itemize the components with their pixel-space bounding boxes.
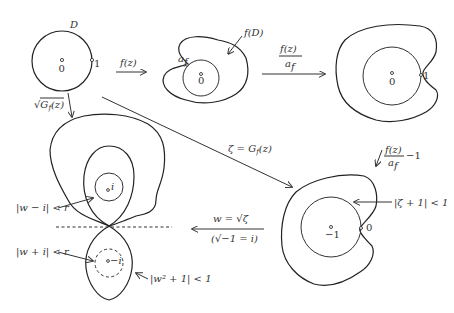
panel-w: i −i |w − i| < r |w + i| < r |w² + 1| < … (16, 114, 212, 300)
arrow-f-label: f(z) (119, 57, 137, 68)
boundary-point-label: 1 (423, 70, 429, 81)
domain-label: D (69, 19, 78, 30)
boundary-point-label: 1 (94, 58, 100, 69)
arrow-G-rhs: (z) (259, 143, 272, 154)
lemniscate-lower-lobe (86, 226, 133, 300)
conformal-mapping-diagram: 0 1 D f(z) 0 a f f(D) f(z) a f 0 1 (0, 0, 454, 313)
lower-disk-label: |w + i| < r (16, 246, 70, 258)
arrow-sqrt-zeta: w = √ζ (√−1 = i) (192, 213, 264, 244)
lemniscate-upper-lobe (84, 146, 134, 226)
image-region-boundary (163, 37, 248, 103)
origin-point (60, 58, 63, 61)
origin-label: 0 (389, 76, 395, 87)
zero-point (360, 227, 363, 230)
arrow-shift: f(z) a f −1 (376, 144, 421, 171)
sqrt-G-label: √Gf(z) (34, 99, 64, 112)
arrow-sqrt-G: √Gf(z) (34, 93, 72, 117)
arrow-G-label: ζ = Gf(z) (228, 143, 272, 156)
arrow-G: ζ = Gf(z) (102, 97, 292, 187)
sqrt-zeta-bottom-label: (√−1 = i) (211, 233, 258, 244)
point-af-subscript: f (183, 56, 190, 67)
point-i (107, 189, 110, 192)
down-arrow (68, 93, 72, 117)
diagonal-arrow (102, 97, 292, 187)
sqrt-zeta-top-label: w = √ζ (213, 213, 249, 224)
panel-normalized: 0 1 (336, 25, 437, 122)
zeta-disk-label: |ζ + 1| < 1 (394, 197, 448, 209)
shift-suffix: −1 (406, 150, 421, 161)
down-arrow (376, 150, 382, 166)
upper-disk-label: |w − i| < r (16, 202, 70, 214)
arrow-G-lhs: ζ = G (228, 143, 256, 154)
fd-label: f(D) (243, 27, 264, 38)
arrow-normalize: f(z) a f (262, 43, 325, 74)
shift-numerator: f(z) (384, 144, 402, 155)
panel-image-fd: 0 a f f(D) (163, 27, 264, 103)
point-minus-i (107, 260, 110, 263)
point-i-label: i (111, 181, 114, 192)
point-minus-i-label: −i (110, 255, 122, 266)
minus-one-label: −1 (325, 229, 340, 240)
panel-unit-disk: 0 1 D (32, 19, 100, 91)
origin-label: 0 (198, 75, 204, 86)
zero-label: 0 (366, 222, 372, 233)
panel-zeta: −1 0 |ζ + 1| < 1 (282, 175, 449, 285)
lemniscate-pointer-arrow (136, 273, 148, 279)
normalize-denominator-sub: f (290, 61, 297, 72)
sqrt-G-rhs: (z) (51, 99, 64, 110)
normalize-numerator: f(z) (279, 43, 297, 54)
lemniscate-label: |w² + 1| < 1 (150, 273, 212, 285)
origin-point (391, 72, 394, 75)
upper-small-disk (95, 173, 123, 201)
fd-pointer-arrow (228, 36, 242, 54)
shift-denominator-sub: f (393, 160, 400, 171)
sqrt-G-main: √G (34, 99, 48, 110)
arrow-f: f(z) (116, 57, 146, 72)
origin-label: 0 (59, 63, 65, 74)
